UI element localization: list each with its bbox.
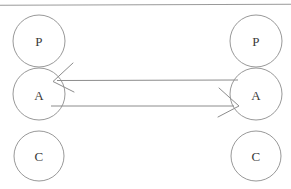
edge-left-to-right [51,88,239,117]
node-label-right-a: A [251,89,261,102]
edge-right-to-left-shaft [57,80,238,81]
edge-right-to-left-arrowhead [53,63,74,92]
top-rule [0,4,291,5]
node-label-right-p: P [252,35,259,48]
edge-right-to-left [53,63,238,92]
node-label-right-c: C [252,150,261,163]
edge-left-to-right-arrowhead [218,88,239,117]
node-label-left-a: A [34,89,44,102]
node-label-left-c: C [35,150,44,163]
node-label-left-p: P [35,35,42,48]
diagram-figure: P A C P A C [0,0,291,189]
